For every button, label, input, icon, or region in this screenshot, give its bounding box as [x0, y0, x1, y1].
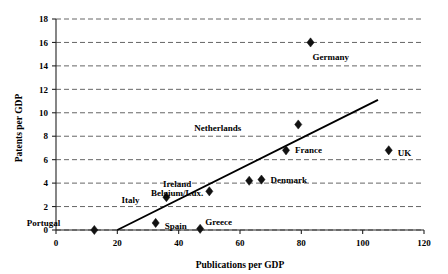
data-point-marker — [295, 120, 302, 129]
data-point-label: Denmark — [270, 175, 307, 185]
x-tick-label-120: 120 — [417, 238, 431, 248]
y-tick-label-18: 18 — [39, 14, 49, 24]
data-point-marker — [152, 218, 159, 227]
x-tick-label-80: 80 — [297, 238, 307, 248]
data-point-label: France — [295, 145, 322, 155]
data-point-label: Belgium/Lux. — [151, 188, 203, 198]
data-point-marker — [197, 224, 204, 233]
data-point-label: UK — [398, 148, 412, 158]
data-point-label: Spain — [165, 221, 187, 231]
x-axis-group: 020406080100120 — [54, 230, 432, 248]
data-point-marker — [385, 146, 392, 155]
x-tick-label-0: 0 — [54, 238, 59, 248]
data-point-label: Germany — [313, 52, 350, 62]
x-axis-title: Publications per GDP — [196, 260, 285, 270]
plot-svg: 024681012141618 020406080100120 Portugal… — [0, 0, 448, 274]
y-tick-label-12: 12 — [39, 85, 49, 95]
y-tick-label-16: 16 — [39, 38, 49, 48]
y-tick-label-14: 14 — [39, 61, 49, 71]
x-tick-label-100: 100 — [356, 238, 370, 248]
data-point-marker — [91, 225, 98, 234]
y-tick-label-2: 2 — [44, 202, 49, 212]
x-tick-labels: 020406080100120 — [54, 238, 432, 248]
y-axis-title: Patents per GDP — [14, 94, 24, 163]
trend-line — [117, 100, 378, 230]
data-point-marker — [246, 176, 253, 185]
y-tick-marks — [52, 19, 56, 230]
data-point-label: Portugal — [27, 218, 61, 228]
y-axis-group: 024681012141618 — [39, 14, 56, 235]
y-tick-labels: 024681012141618 — [39, 14, 49, 235]
y-tick-label-8: 8 — [44, 131, 49, 141]
y-tick-label-4: 4 — [44, 178, 49, 188]
scatter-chart: 024681012141618 020406080100120 Portugal… — [0, 0, 448, 274]
y-tick-label-10: 10 — [39, 108, 49, 118]
data-point-label: Italy — [121, 195, 140, 205]
data-point-marker — [206, 187, 213, 196]
data-point-label: Netherlands — [194, 123, 241, 133]
x-tick-marks — [56, 230, 424, 234]
y-tick-label-6: 6 — [44, 155, 49, 165]
x-tick-label-60: 60 — [236, 238, 246, 248]
x-tick-label-20: 20 — [113, 238, 123, 248]
data-point-marker — [307, 38, 314, 47]
data-point-labels-group: PortugalSpainItalyGreeceIrelandBelgium/L… — [27, 52, 411, 232]
x-tick-label-40: 40 — [174, 238, 184, 248]
data-point-label: Greece — [205, 217, 232, 227]
